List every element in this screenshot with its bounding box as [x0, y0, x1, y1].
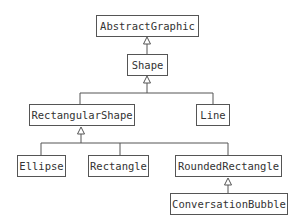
inheritance-arrow-icon [144, 37, 151, 44]
node-line: Line [196, 104, 230, 126]
node-rectangular-shape: RectangularShape [29, 104, 135, 126]
node-shape: Shape [127, 54, 168, 76]
node-rectangle: Rectangle [88, 155, 149, 177]
node-rounded-rectangle: RoundedRectangle [175, 155, 282, 177]
inheritance-arrow-icon [78, 127, 85, 134]
node-conversation-bubble: ConversationBubble [170, 193, 288, 215]
inheritance-arrow-icon [144, 76, 151, 83]
node-abstract-graphic: AbstractGraphic [96, 15, 199, 37]
inheritance-arrow-icon [225, 178, 232, 185]
node-ellipse: Ellipse [17, 155, 66, 177]
